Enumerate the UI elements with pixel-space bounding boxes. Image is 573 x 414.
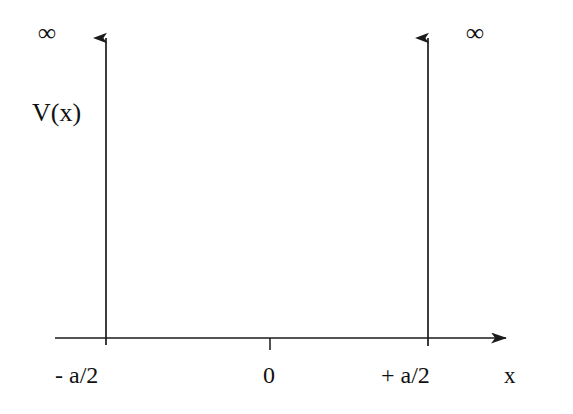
- vertical-axis-label-v-of-x: V(x): [32, 100, 81, 126]
- x-tick-label-minus-a-over-2: - a/2: [55, 363, 98, 387]
- potential-well-figure: ∞ ∞ V(x) - a/2 0 + a/2 x: [0, 0, 573, 414]
- infinity-label-right: ∞: [466, 20, 483, 45]
- infinity-label-left: ∞: [38, 20, 55, 45]
- potential-well-diagram-canvas: [0, 0, 573, 414]
- x-tick-label-zero: 0: [263, 363, 275, 387]
- x-tick-label-plus-a-over-2: + a/2: [381, 363, 430, 387]
- horizontal-axis-label-x: x: [504, 364, 516, 387]
